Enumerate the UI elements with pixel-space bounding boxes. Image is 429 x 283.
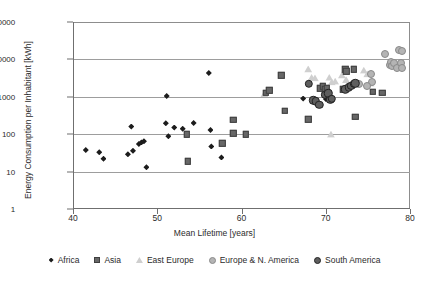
legend-label: Asia: [104, 255, 121, 265]
data-point: [171, 125, 177, 131]
legend-label: Africa: [58, 255, 80, 265]
legend-item[interactable]: Africa: [49, 255, 80, 265]
x-axis-title: Mean Lifetime [years]: [0, 228, 429, 238]
data-point: [184, 131, 190, 137]
data-point: [208, 143, 214, 149]
legend-marker-icon: [209, 257, 216, 264]
y-axis-tick-mark: [67, 171, 73, 172]
x-axis-tick-label: 50: [153, 213, 162, 223]
legend-item[interactable]: Europe & N. America: [209, 255, 299, 265]
data-point: [185, 158, 191, 164]
data-point: [351, 66, 357, 72]
data-point: [83, 147, 89, 153]
x-axis-tick-label: 40: [68, 213, 77, 223]
data-point: [191, 120, 197, 126]
x-axis-tick-mark: [73, 209, 74, 214]
x-axis-tick-label: 80: [405, 213, 414, 223]
data-point: [315, 101, 323, 109]
plot-area: [73, 22, 410, 209]
data-point: [398, 64, 406, 72]
scatter-chart: 110100100010000100000 4050607080 Mean Li…: [0, 0, 429, 283]
gridline: [74, 97, 410, 98]
legend-item[interactable]: South America: [314, 255, 380, 265]
y-axis-tick-mark: [67, 96, 73, 97]
y-axis-tick-label: 100000: [0, 18, 15, 27]
data-point: [352, 114, 358, 120]
data-point: [207, 127, 213, 133]
data-point: [381, 50, 389, 58]
data-point: [328, 95, 336, 103]
legend-marker-icon: [314, 257, 321, 264]
data-point: [143, 164, 149, 170]
data-point: [96, 149, 102, 155]
data-point: [398, 47, 406, 55]
data-point: [370, 89, 376, 95]
y-axis-tick-mark: [67, 22, 73, 23]
data-point: [343, 68, 349, 74]
legend-marker-icon: [49, 258, 54, 263]
legend-marker-icon: [94, 257, 100, 263]
data-point: [230, 130, 236, 136]
data-point: [230, 117, 236, 123]
data-point: [379, 89, 385, 95]
x-axis-tick-mark: [242, 209, 243, 214]
legend-item[interactable]: Asia: [94, 255, 121, 265]
gridline: [74, 59, 410, 60]
data-point: [218, 154, 224, 160]
legend-item[interactable]: East Europe: [136, 255, 194, 265]
data-point: [125, 151, 131, 157]
y-axis-tick-label: 10000: [0, 55, 15, 64]
legend-label: East Europe: [147, 255, 194, 265]
y-axis-tick-label: 1000: [0, 92, 15, 101]
gridline: [74, 172, 410, 173]
y-axis-tick-label: 100: [2, 130, 15, 139]
legend-marker-icon: [136, 257, 143, 263]
data-point: [278, 72, 284, 78]
data-point: [363, 82, 371, 90]
data-point: [266, 87, 272, 93]
chart-legend: AfricaAsiaEast EuropeEurope & N. America…: [0, 255, 429, 265]
y-axis-title: Energy Consumption per Inhabitant [kWh]: [23, 30, 33, 210]
plot-right-border: [409, 22, 410, 208]
legend-label: South America: [325, 255, 380, 265]
x-axis-tick-mark: [157, 209, 158, 214]
x-axis-tick-label: 70: [321, 213, 330, 223]
data-point: [130, 148, 136, 154]
data-point: [305, 116, 311, 122]
data-point: [164, 93, 170, 99]
data-point: [163, 120, 169, 126]
data-point: [128, 124, 134, 130]
data-point: [281, 107, 287, 113]
y-axis-tick-label: 10: [6, 167, 15, 176]
data-point: [219, 140, 225, 146]
data-point: [100, 156, 106, 162]
data-point: [243, 131, 249, 137]
plot-top-border: [74, 22, 410, 23]
x-axis-tick-mark: [326, 209, 327, 214]
data-point: [206, 70, 212, 76]
legend-label: Europe & N. America: [220, 255, 299, 265]
y-axis-tick-mark: [67, 59, 73, 60]
y-axis-tick-mark: [67, 134, 73, 135]
y-axis-tick-label: 1: [11, 205, 15, 214]
data-point: [304, 66, 312, 73]
x-axis-tick-label: 60: [237, 213, 246, 223]
data-point: [305, 80, 313, 88]
x-axis-tick-mark: [410, 209, 411, 214]
